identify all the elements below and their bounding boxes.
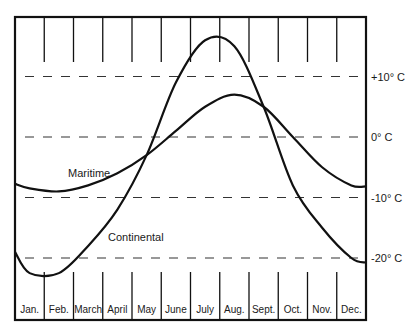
month-label: Aug. xyxy=(224,304,245,315)
series-label-maritime: Maritime xyxy=(68,167,110,179)
month-label: Nov. xyxy=(312,304,332,315)
y-axis-labels: +10° C0° C-10° C-20° C xyxy=(371,71,405,265)
y-tick-label: 0° C xyxy=(371,131,393,143)
month-label: April xyxy=(107,304,127,315)
month-label: Dec. xyxy=(341,304,362,315)
curve-continental xyxy=(15,37,366,277)
month-label: Jan. xyxy=(20,304,39,315)
month-label: Oct. xyxy=(284,304,302,315)
y-tick-label: +10° C xyxy=(371,71,405,83)
y-tick-label: -20° C xyxy=(371,252,402,264)
y-tick-label: -10° C xyxy=(371,192,402,204)
temperature-chart: Jan.Feb.MarchAprilMayJuneJulyAug.Sept.Oc… xyxy=(0,0,414,333)
month-label: June xyxy=(165,304,187,315)
month-label: Feb. xyxy=(49,304,69,315)
month-label: Sept. xyxy=(252,304,275,315)
curves xyxy=(15,37,366,277)
month-label: July xyxy=(196,304,214,315)
series-label-continental: Continental xyxy=(108,231,164,243)
month-label: May xyxy=(137,304,156,315)
month-label: March xyxy=(74,304,102,315)
